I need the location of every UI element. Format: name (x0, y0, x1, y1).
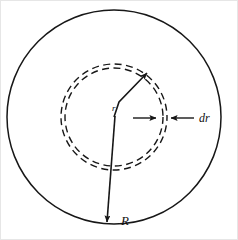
annulus-radius-diagram: R r dr (0, 0, 238, 240)
outer-radius-label: R (120, 213, 129, 228)
figure-container: R r dr (0, 0, 238, 240)
inner-radius-arrow (114, 73, 147, 117)
inner-radius-label: r (112, 103, 116, 113)
thickness-label: dr (199, 111, 210, 125)
